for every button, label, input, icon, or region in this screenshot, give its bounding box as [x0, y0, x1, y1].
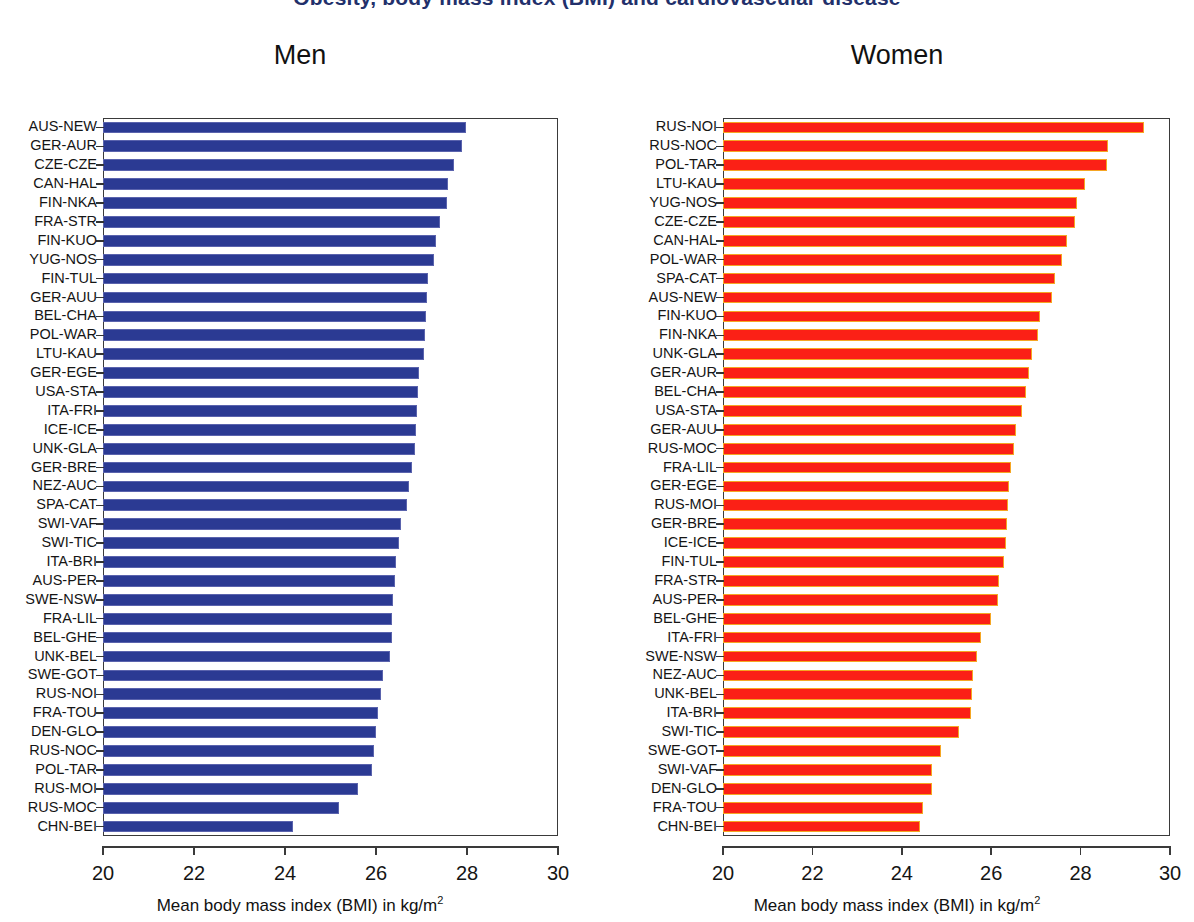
x-axis-title: Mean body mass index (BMI) in kg/m2 [0, 894, 600, 916]
y-axis-tick [716, 712, 724, 714]
bar [103, 424, 416, 436]
x-axis-title: Mean body mass index (BMI) in kg/m2 [600, 894, 1194, 916]
bar [723, 292, 1052, 304]
bar [103, 594, 393, 606]
bar [103, 197, 447, 209]
y-axis-label: NEZ-AUC [33, 478, 97, 493]
bar [103, 443, 415, 455]
bar [723, 348, 1032, 360]
x-axis-tick-label: 26 [346, 862, 406, 885]
bar [103, 159, 454, 171]
y-axis-label: RUS-NOI [656, 119, 717, 134]
bar [723, 613, 991, 625]
y-axis-label: GER-AUR [650, 365, 717, 380]
y-axis-label: LTU-KAU [656, 176, 717, 191]
y-axis-label: DEN-GLO [31, 724, 97, 739]
x-axis-tick-label: 26 [961, 862, 1021, 885]
y-axis-tick [716, 675, 724, 677]
bar [103, 802, 339, 814]
y-axis-label: USA-STA [655, 403, 717, 418]
x-axis-tick [466, 846, 468, 855]
bar [723, 216, 1075, 228]
bar [723, 632, 981, 644]
y-axis-label: YUG-NOS [649, 195, 717, 210]
bar [723, 254, 1062, 266]
y-axis-label: SWI-VAF [38, 516, 97, 531]
y-axis-tick [96, 410, 104, 412]
x-axis-title-exponent: 2 [1034, 894, 1040, 906]
y-axis-label: FIN-NKA [39, 195, 97, 210]
y-axis-tick [716, 523, 724, 525]
y-axis-tick [96, 656, 104, 658]
y-axis-label: UNK-GLA [33, 441, 97, 456]
x-axis-tick-label: 22 [782, 862, 842, 885]
y-axis-label: CAN-HAL [33, 176, 97, 191]
x-axis-tick-label: 28 [1051, 862, 1111, 885]
x-axis-tick-label: 24 [255, 862, 315, 885]
x-axis-tick [901, 846, 903, 855]
y-axis-label: DEN-GLO [651, 781, 717, 796]
y-axis-tick [716, 297, 724, 299]
y-axis-label: POL-WAR [650, 252, 717, 267]
y-axis-label: FRA-TOU [653, 800, 717, 815]
y-axis-tick [716, 353, 724, 355]
y-axis-tick [716, 183, 724, 185]
y-axis-tick [96, 164, 104, 166]
y-axis-label: ITA-FRI [667, 630, 717, 645]
y-axis-label: RUS-MOC [28, 800, 97, 815]
y-axis-tick [716, 316, 724, 318]
x-axis-tick-label: 22 [164, 862, 224, 885]
y-axis-tick [716, 656, 724, 658]
y-axis-label: BEL-CHA [654, 384, 717, 399]
y-axis-label: RUS-NOC [649, 138, 717, 153]
bar [723, 745, 941, 757]
y-axis-label: RUS-NOC [29, 743, 97, 758]
y-axis-label: CZE-CZE [654, 214, 717, 229]
bar [723, 594, 998, 606]
x-axis-tick [102, 846, 104, 855]
y-axis-tick [96, 675, 104, 677]
bar [103, 556, 396, 568]
y-axis-label: LTU-KAU [36, 346, 97, 361]
y-axis-label: FIN-TUL [661, 554, 717, 569]
y-axis-label: GER-AUU [650, 422, 717, 437]
y-axis-label: FRA-STR [654, 573, 717, 588]
bar [103, 688, 381, 700]
y-axis-label: GER-BRE [651, 516, 717, 531]
y-axis-tick [96, 788, 104, 790]
bar [723, 783, 932, 795]
y-axis-label: SWI-TIC [41, 535, 97, 550]
y-axis-tick [96, 542, 104, 544]
bar [103, 273, 428, 285]
y-axis-label: ITA-BRI [47, 554, 97, 569]
y-axis-label: YUG-NOS [29, 252, 97, 267]
y-axis-tick [96, 486, 104, 488]
bar [103, 745, 374, 757]
y-axis-tick [716, 618, 724, 620]
bar [103, 821, 293, 833]
y-axis-label: RUS-MOC [648, 441, 717, 456]
y-axis-tick [716, 486, 724, 488]
y-axis-label: FIN-TUL [41, 271, 97, 286]
x-axis-title-text: Mean body mass index (BMI) in kg/m [754, 896, 1035, 915]
y-axis-tick [716, 637, 724, 639]
bar [103, 405, 417, 417]
y-axis-label: FRA-LIL [663, 460, 717, 475]
x-axis-line [723, 846, 1170, 848]
y-axis-tick [716, 335, 724, 337]
y-axis-tick [96, 618, 104, 620]
y-axis-tick [716, 807, 724, 809]
y-axis-label: ICE-ICE [44, 422, 97, 437]
y-axis-label: FIN-KUO [37, 233, 97, 248]
y-axis-label: RUS-MOI [654, 497, 717, 512]
x-axis-tick [557, 846, 559, 855]
y-axis-tick [96, 807, 104, 809]
y-axis-label: ICE-ICE [664, 535, 717, 550]
x-axis-tick [1080, 846, 1082, 855]
bar [723, 518, 1007, 530]
x-axis-tick-label: 28 [437, 862, 497, 885]
bar [103, 481, 409, 493]
bar [723, 499, 1008, 511]
bar [723, 424, 1016, 436]
y-axis-label: AUS-NEW [29, 119, 97, 134]
